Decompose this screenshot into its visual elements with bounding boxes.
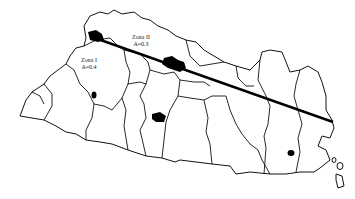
zone-ii-name: Zona II [124, 34, 158, 41]
el-salvador-map [0, 0, 355, 199]
island [336, 174, 344, 188]
island [332, 158, 336, 163]
zone-i-coefficient: A=0.4 [75, 64, 103, 71]
island [337, 163, 343, 170]
zone-i-name: Zona I [75, 57, 103, 64]
lake-olomega [288, 150, 295, 156]
zone-ii-coefficient: A=0.3 [124, 41, 158, 48]
zone-ii-label: Zona II A=0.3 [124, 34, 158, 48]
lake-coatepeque [92, 92, 97, 99]
zone-i-label: Zona I A=0.4 [75, 57, 103, 71]
country-outline [20, 10, 334, 174]
